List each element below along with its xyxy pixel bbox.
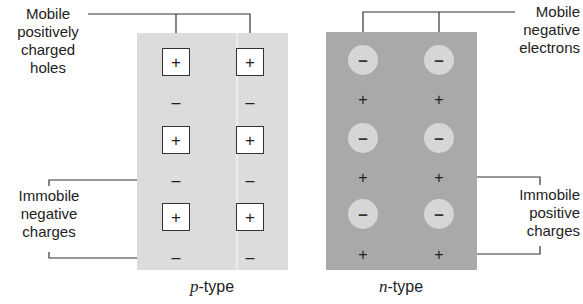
hole-symbol: + xyxy=(162,203,190,231)
negative-ion: – xyxy=(242,173,258,189)
hole-symbol: + xyxy=(162,126,190,154)
electron-symbol: – xyxy=(348,45,378,75)
hole-symbol: + xyxy=(236,126,264,154)
electron-symbol: – xyxy=(424,199,454,229)
label-immobile-positive: Immobile positive charges xyxy=(495,186,580,240)
n-type-panel: – – + + – – + + – – + + xyxy=(326,32,477,270)
caption-p-type: p-type xyxy=(172,277,252,297)
label-immobile-negative: Immobile negative charges xyxy=(5,187,93,241)
electron-symbol: – xyxy=(348,199,378,229)
negative-ion: – xyxy=(242,250,258,266)
positive-ion: + xyxy=(431,170,447,186)
negative-ion: – xyxy=(242,95,258,111)
label-mobile-holes: Mobile positively charged holes xyxy=(8,5,88,77)
negative-ion: – xyxy=(168,95,184,111)
hole-symbol: + xyxy=(236,48,264,76)
electron-symbol: – xyxy=(348,123,378,153)
negative-ion: – xyxy=(168,173,184,189)
hole-symbol: + xyxy=(162,48,190,76)
positive-ion: + xyxy=(355,170,371,186)
label-mobile-electrons: Mobile negative electrons xyxy=(505,3,580,57)
caption-n-type: n-type xyxy=(361,277,441,297)
positive-ion: + xyxy=(355,247,371,263)
positive-ion: + xyxy=(431,92,447,108)
hole-symbol: + xyxy=(236,203,264,231)
electron-symbol: – xyxy=(424,123,454,153)
positive-ion: + xyxy=(355,92,371,108)
electron-symbol: – xyxy=(424,45,454,75)
p-type-panel: + + – – + + – – + + – – xyxy=(137,33,288,270)
negative-ion: – xyxy=(168,250,184,266)
positive-ion: + xyxy=(431,247,447,263)
